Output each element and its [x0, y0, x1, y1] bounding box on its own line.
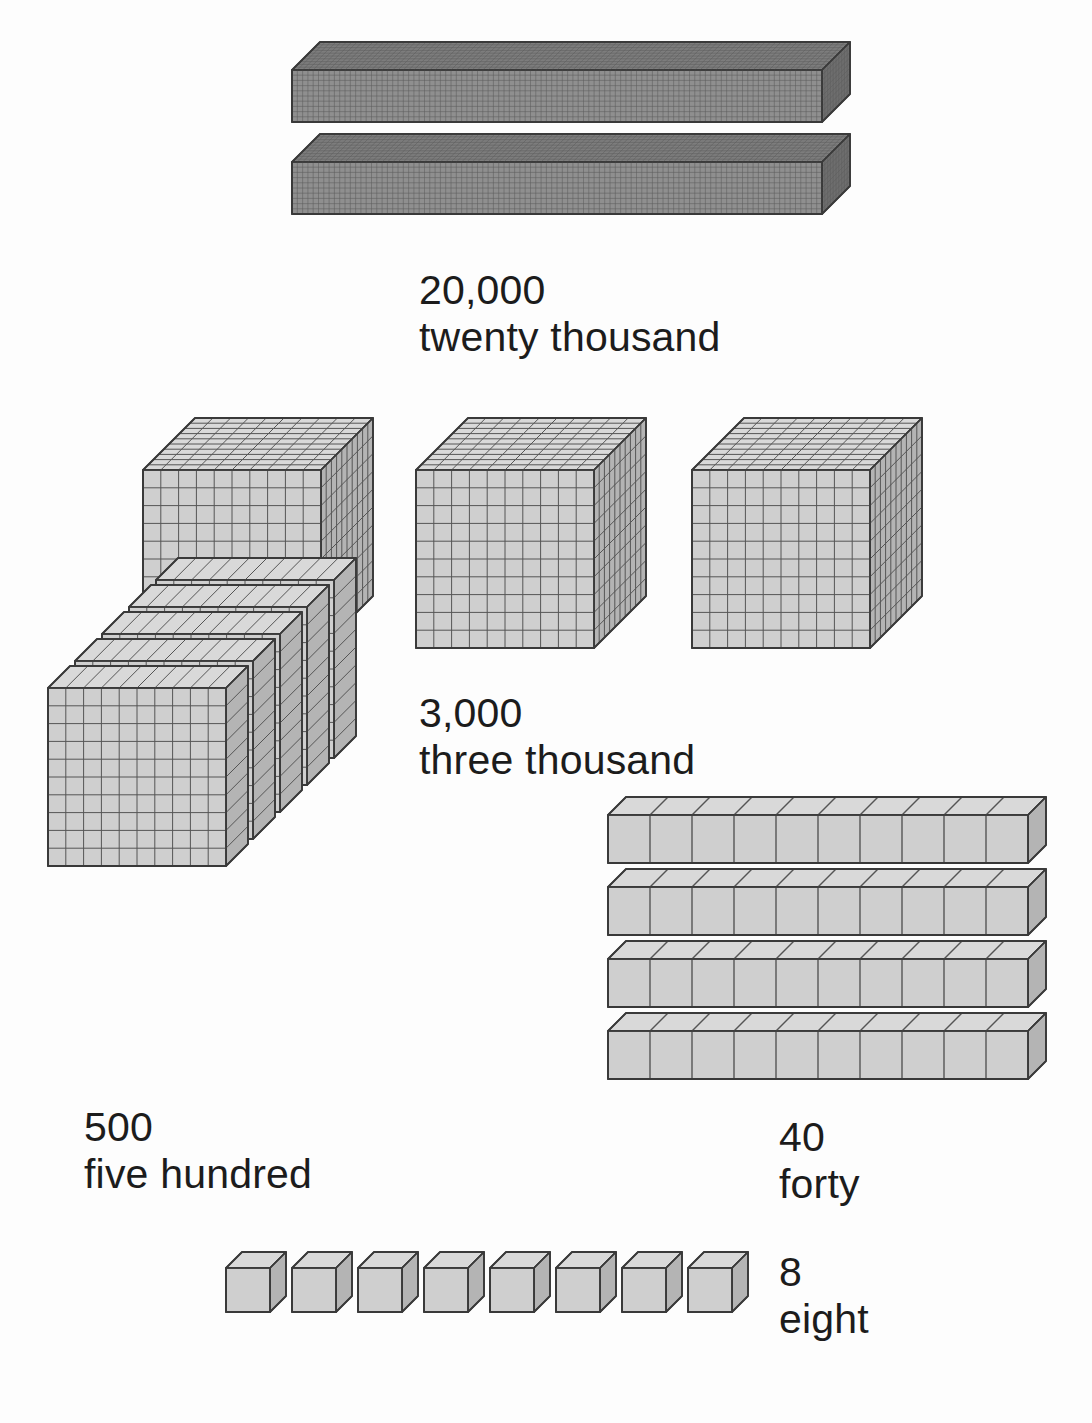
- ones-word: eight: [779, 1296, 869, 1343]
- ones-number: 8: [779, 1249, 869, 1296]
- ones-block-group: [0, 0, 1092, 1400]
- label-ones: 8 eight: [779, 1249, 869, 1342]
- place-value-diagram: 20,000 twenty thousand 3,000 three thous…: [0, 0, 1092, 1423]
